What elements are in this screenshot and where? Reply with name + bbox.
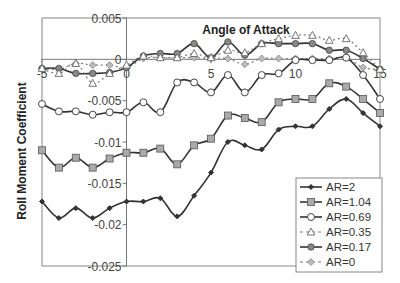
legend-label: AR=1.04 bbox=[326, 196, 372, 208]
y-tick-label: 0 bbox=[115, 53, 122, 67]
y-tick-label: -0.02 bbox=[94, 218, 122, 232]
roll-moment-chart: 0.0050-0.005-0.01-0.015-0.02-0.025-50510… bbox=[0, 0, 400, 283]
y-tick-label: -0.01 bbox=[94, 136, 122, 150]
y-tick-label: 0.005 bbox=[91, 12, 121, 26]
y-tick-label: -0.015 bbox=[87, 177, 121, 191]
y-tick-label: -0.005 bbox=[87, 94, 121, 108]
legend: AR=2AR=1.04AR=0.69AR=0.35AR=0.17AR=0 bbox=[296, 178, 382, 272]
y-tick-label: -0.025 bbox=[87, 260, 121, 274]
x-tick-label: 10 bbox=[289, 67, 303, 81]
y-axis-title: Roll Moment Coefficient bbox=[15, 82, 29, 219]
legend-label: AR=0.17 bbox=[326, 241, 371, 253]
legend-label: AR=2 bbox=[326, 181, 355, 193]
x-tick-label: 5 bbox=[208, 67, 215, 81]
x-axis-title: Angle of Attack bbox=[202, 23, 290, 37]
legend-label: AR=0.35 bbox=[326, 226, 371, 238]
legend-label: AR=0 bbox=[326, 256, 355, 268]
legend-label: AR=0.69 bbox=[326, 211, 371, 223]
